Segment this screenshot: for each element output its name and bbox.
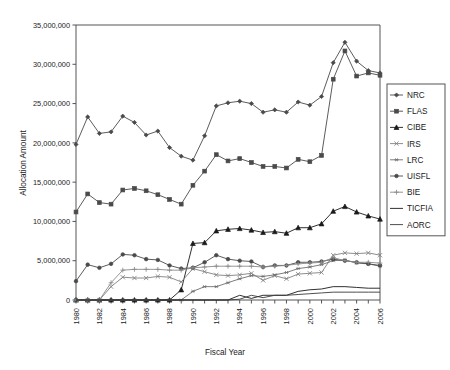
series-nrc [74,40,382,162]
data-point [132,267,137,272]
x-tick-label: 1990 [189,308,198,324]
y-tick-label: 20,000,000 [33,139,70,148]
data-point [214,264,219,269]
data-point [109,202,113,206]
data-point [155,267,160,272]
data-point [249,274,253,277]
data-point [261,278,265,282]
data-point [308,266,312,269]
y-tick-label: 10,000,000 [33,217,70,226]
x-tick-label: 1992 [212,308,221,324]
series-cibe [74,204,383,302]
data-point [355,74,359,78]
data-point [98,266,102,270]
data-point [144,189,148,193]
x-tick-label: 1994 [235,308,244,324]
data-point [226,281,230,284]
x-tick-label: 1986 [142,308,151,324]
data-point [191,183,195,187]
data-point [133,253,137,257]
series-line-ticfia [76,287,380,300]
data-point [156,258,160,262]
data-point [238,157,242,161]
series-flas [74,49,382,214]
data-point [168,198,172,202]
data-point [296,157,300,161]
data-point [74,210,78,214]
data-point [343,258,348,263]
x-tick-label: 1988 [165,308,174,324]
legend-marker-uisfl [395,174,399,178]
legend-label-nrc: NRC [407,91,425,100]
data-point [179,202,183,206]
x-tick-label: 1984 [119,308,128,324]
data-point [331,77,335,81]
data-point [191,290,195,293]
legend-label-lrc: LRC [407,156,423,165]
data-point [237,264,242,269]
data-point [203,134,207,138]
data-point [238,277,242,280]
data-point [261,165,265,169]
data-point [144,257,148,261]
data-point [249,264,254,269]
legend-label-irs: IRS [407,140,421,149]
chart-figure: 05,000,00010,000,00015,000,00020,000,000… [0,0,450,370]
data-point [331,61,335,65]
data-point [354,210,359,215]
data-point [203,260,207,264]
data-point [74,279,78,283]
data-point [121,188,125,192]
data-point [214,285,218,288]
x-axis-title: Fiscal Year [205,348,245,357]
data-point [121,253,125,257]
data-point [144,267,149,272]
x-tick-label: 2006 [376,308,385,324]
data-point [214,153,218,157]
legend-label-flas: FLAS [407,107,428,116]
data-point [249,161,253,165]
data-point [203,285,207,288]
x-tick-label: 1996 [259,308,268,324]
data-point [366,71,370,75]
legend-label-ticfia: TICFIA [407,204,433,213]
data-point [109,262,113,266]
data-point [226,159,230,163]
data-point [261,275,265,278]
line-chart: 05,000,00010,000,00015,000,00020,000,000… [0,0,450,370]
data-point [273,165,277,169]
x-tick-label: 2004 [352,308,361,324]
legend-label-uisfl: UISFL [407,172,431,181]
legend-label-aorc: AORC [407,221,431,230]
data-point [167,268,172,273]
data-point [343,49,347,53]
y-axis-title: Allocation Amount [19,130,28,196]
data-point [226,101,230,105]
y-tick-label: 30,000,000 [33,60,70,69]
data-point [86,263,90,267]
y-tick-label: 35,000,000 [33,21,70,30]
data-point [250,260,254,264]
data-point [238,259,242,263]
data-point [226,257,230,261]
data-point [284,263,289,268]
data-point [86,192,90,196]
data-point [97,201,101,205]
x-tick-label: 1980 [72,308,81,324]
x-tick-label: 1998 [282,308,291,324]
data-point [179,287,184,292]
data-point [378,73,382,77]
data-point [261,265,266,270]
data-point [191,158,195,162]
series-bie [74,255,383,302]
data-point [168,264,172,268]
data-point [238,99,242,103]
data-point [156,193,160,197]
data-point [133,187,137,191]
data-point [308,160,312,164]
legend-label-cibe: CIBE [407,123,427,132]
data-point [343,204,348,209]
data-point [214,104,218,108]
legend-label-bie: BIE [407,188,421,197]
data-point [296,267,300,270]
